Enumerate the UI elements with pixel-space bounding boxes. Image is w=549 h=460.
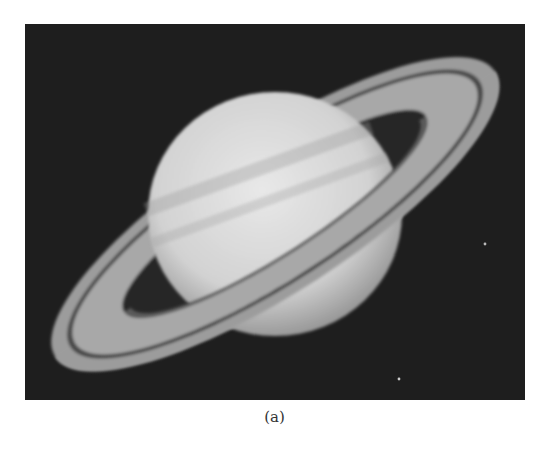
- saturn-illustration: [25, 24, 525, 400]
- saturn-photo: [25, 24, 525, 400]
- figure-caption: (a): [0, 408, 549, 426]
